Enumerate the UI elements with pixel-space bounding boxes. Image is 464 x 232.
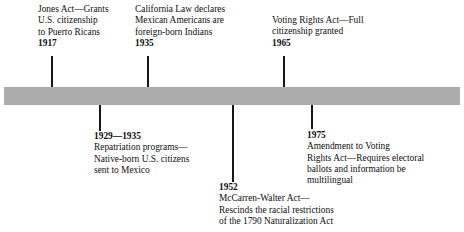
timeline-entry-voting-rights-act: Voting Rights Act—Full citizenship grant… (272, 15, 364, 49)
entry-line: of the 1790 Naturalization Act (219, 216, 334, 227)
entry-line: Native-born U.S. citizens (94, 154, 189, 165)
entry-line: Rights Act—Requires electoral (307, 153, 424, 164)
entry-line: Amendment to Voting (307, 141, 424, 152)
entry-line: to Puerto Ricans (38, 27, 109, 38)
entry-line: California Law declares (135, 4, 225, 15)
timeline-entry-california-law: California Law declares Mexican American… (135, 4, 225, 49)
entry-line: multilingual (307, 175, 424, 186)
entry-line: McCarren-Walter Act— (219, 193, 334, 204)
entry-year: 1929—1935 (94, 131, 189, 142)
timeline-tick-1935 (147, 56, 149, 88)
entry-line: foreign-born Indians (135, 27, 225, 38)
timeline-entry-mccarren-walter-act: 1952 McCarren-Walter Act— Rescinds the r… (219, 182, 334, 227)
entry-line: citizenship granted (272, 26, 364, 37)
timeline-tick-1929-1935 (99, 105, 101, 131)
entry-line: Repatriation programs— (94, 142, 189, 153)
timeline-tick-1975 (311, 105, 313, 129)
entry-year: 1935 (135, 38, 225, 49)
timeline-entry-jones-act: Jones Act—Grants U.S. citizenship to Pue… (38, 4, 109, 49)
entry-line: U.S. citizenship (38, 15, 109, 26)
entry-year: 1965 (272, 38, 364, 49)
entry-line: Voting Rights Act—Full (272, 15, 364, 26)
timeline-entry-voting-rights-amendment: 1975 Amendment to Voting Rights Act—Requ… (307, 130, 424, 186)
entry-year: 1975 (307, 130, 424, 141)
entry-line: sent to Mexico (94, 165, 189, 176)
entry-line: Rescinds the racial restrictions (219, 205, 334, 216)
entry-line: Mexican Americans are (135, 15, 225, 26)
timeline-tick-1917 (51, 56, 53, 88)
entry-line: Jones Act—Grants (38, 4, 109, 15)
entry-year: 1917 (38, 38, 109, 49)
timeline-tick-1965 (283, 56, 285, 88)
timeline-entry-repatriation-programs: 1929—1935 Repatriation programs— Native-… (94, 131, 189, 176)
timeline-tick-1952 (232, 105, 234, 182)
entry-line: ballots and information be (307, 164, 424, 175)
timeline-axis-bar (4, 87, 460, 105)
timeline-figure: Jones Act—Grants U.S. citizenship to Pue… (0, 0, 464, 232)
